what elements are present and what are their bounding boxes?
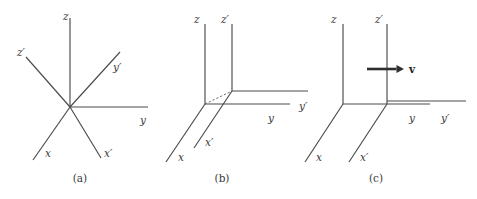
panel-c-z-axis-label: z [330,13,337,25]
figure-container: zyxz′y′x′(a)zyxz′y′x′(b)zyxz′y′x′v(c) [0,0,477,199]
panel-a-x-prime-axis [70,107,101,158]
panel-a-z-axis-label: z [62,10,69,22]
panel-c-x-axis-label: x [316,151,322,163]
panel-c-velocity-vector-label: v [408,63,416,75]
panel-c-velocity-vector-head [397,65,405,73]
panel-c-x-axis [305,104,343,162]
panel-b-y-axis-label: y [267,112,275,124]
panel-a-y-prime-axis-label: y′ [112,61,122,73]
panel-a: zyxz′y′x′(a) [16,10,148,184]
panel-c-y-axis-label: y [408,112,416,124]
panel-a-x-axis [33,107,70,160]
panel-b-x-axis [166,104,205,162]
panel-a-x-axis-label: x [45,147,51,159]
coordinate-frames-figure: zyxz′y′x′(a)zyxz′y′x′(b)zyxz′y′x′v(c) [0,0,477,199]
panel-c-caption: (c) [369,172,383,184]
panel-b: zyxz′y′x′(b) [166,13,308,184]
panel-a-y-axis-label: y [139,114,147,126]
panel-b-x-prime-axis-label: x′ [205,136,214,148]
panels-group: zyxz′y′x′(a)zyxz′y′x′(b)zyxz′y′x′v(c) [16,10,466,184]
panel-c: zyxz′y′x′v(c) [305,13,466,184]
panel-a-z-prime-axis [26,57,70,107]
panel-a-caption: (a) [73,172,87,184]
panel-b-z-prime-axis-label: z′ [220,13,230,25]
panel-c-z-prime-axis-label: z′ [374,13,384,25]
panel-b-x-axis-label: x [178,151,184,163]
panel-c-x-prime-axis-label: x′ [360,151,369,163]
panel-b-caption: (b) [215,172,230,184]
panel-b-z-axis-label: z [193,13,200,25]
panel-b-y-prime-axis-label: y′ [298,100,308,112]
panel-a-x-prime-axis-label: x′ [104,147,113,159]
panel-c-y-prime-axis-label: y′ [440,112,450,124]
panel-a-z-prime-axis-label: z′ [16,46,26,58]
